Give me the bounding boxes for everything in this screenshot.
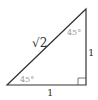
bottom-angle-label: 45° <box>20 75 34 84</box>
top-angle-label: 45° <box>67 28 81 37</box>
right-angle-marker <box>78 78 86 85</box>
vertical-leg-label: 1 <box>88 47 94 58</box>
hypotenuse-label: √2 <box>32 36 47 50</box>
horizontal-leg-label: 1 <box>47 87 53 98</box>
triangle-diagram: √2 45° 1 45° 1 <box>0 0 98 100</box>
